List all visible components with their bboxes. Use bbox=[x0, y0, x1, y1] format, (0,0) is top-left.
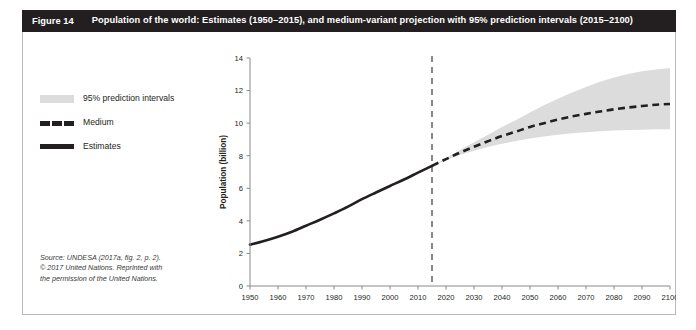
x-axis-tick-label: 1990 bbox=[354, 293, 371, 302]
x-axis-tick-label: 2090 bbox=[634, 293, 651, 302]
x-axis-tick-label: 1970 bbox=[298, 293, 315, 302]
source-line-2: © 2017 United Nations. Reprinted with bbox=[40, 263, 230, 273]
x-axis-tick-label: 1980 bbox=[326, 293, 343, 302]
x-axis-tick-label: 1960 bbox=[270, 293, 287, 302]
x-axis-tick-label: 2100 bbox=[662, 293, 676, 302]
x-axis-tick-label: 2060 bbox=[550, 293, 567, 302]
x-axis: 1950196019701980199020002010202020302040… bbox=[242, 286, 676, 302]
legend-label-band: 95% prediction intervals bbox=[83, 94, 174, 103]
estimates-line bbox=[250, 166, 432, 245]
y-axis-tick-label: 12 bbox=[235, 86, 243, 95]
x-axis-tick-label: 2000 bbox=[382, 293, 399, 302]
y-axis-tick-label: 6 bbox=[239, 184, 243, 193]
chart-legend: 95% prediction intervals Medium Estimate… bbox=[40, 88, 220, 160]
legend-item-band: 95% prediction intervals bbox=[40, 88, 220, 108]
x-axis-tick-label: 2030 bbox=[466, 293, 483, 302]
solid-line-swatch-icon bbox=[40, 142, 74, 151]
source-note: Source: UNDESA (2017a, fig. 2, p. 2). © … bbox=[40, 253, 230, 284]
legend-label-estimates: Estimates bbox=[83, 142, 121, 151]
prediction-interval-band bbox=[432, 68, 670, 166]
x-axis-tick-label: 2070 bbox=[578, 293, 595, 302]
x-axis-tick-label: 1950 bbox=[242, 293, 259, 302]
population-chart: 02468101214 1950196019701980199020002010… bbox=[214, 44, 676, 312]
y-axis-title: Population (billion) bbox=[219, 135, 228, 209]
estimates-path bbox=[250, 166, 432, 245]
figure-number-label: Figure 14 bbox=[22, 16, 82, 26]
x-axis-tick-label: 2080 bbox=[606, 293, 623, 302]
legend-item-estimates: Estimates bbox=[40, 136, 220, 156]
prediction-interval-area bbox=[432, 68, 670, 166]
y-axis-tick-label: 4 bbox=[239, 217, 243, 226]
legend-label-medium: Medium bbox=[83, 118, 114, 127]
y-axis-tick-label: 10 bbox=[235, 119, 243, 128]
x-axis-tick-label: 2050 bbox=[522, 293, 539, 302]
y-axis-tick-label: 0 bbox=[239, 282, 243, 291]
y-axis: 02468101214 bbox=[235, 54, 250, 291]
x-axis-tick-label: 2010 bbox=[410, 293, 427, 302]
band-swatch-icon bbox=[40, 94, 74, 103]
chart-svg: 02468101214 1950196019701980199020002010… bbox=[214, 44, 676, 312]
y-axis-tick-label: 2 bbox=[239, 249, 243, 258]
figure-title-bar: Figure 14 Population of the world: Estim… bbox=[22, 10, 676, 32]
dashed-line-swatch-icon bbox=[40, 118, 74, 127]
x-axis-tick-label: 2020 bbox=[438, 293, 455, 302]
x-axis-tick-label: 2040 bbox=[494, 293, 511, 302]
figure-root: Figure 14 Population of the world: Estim… bbox=[0, 0, 696, 330]
page-title: Population of the world: Estimates (1950… bbox=[82, 16, 633, 25]
y-axis-tick-label: 14 bbox=[235, 54, 243, 63]
y-axis-tick-label: 8 bbox=[239, 152, 243, 161]
y-axis-label-text: Population (billion) bbox=[219, 135, 228, 209]
source-line-3: the permission of the United Nations. bbox=[40, 274, 230, 284]
legend-item-medium: Medium bbox=[40, 112, 220, 132]
source-line-1: Source: UNDESA (2017a, fig. 2, p. 2). bbox=[40, 253, 230, 263]
